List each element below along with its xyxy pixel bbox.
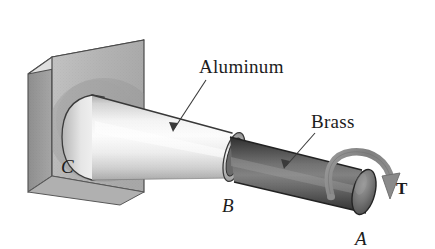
label-brass: Brass bbox=[311, 112, 355, 131]
label-point-b: B bbox=[222, 196, 234, 215]
label-point-c: C bbox=[61, 157, 74, 176]
torque-arrow-tail bbox=[327, 194, 335, 200]
label-aluminum: Aluminum bbox=[199, 57, 284, 76]
aluminum-tube bbox=[62, 95, 249, 184]
label-point-a: A bbox=[355, 229, 367, 248]
label-torque-t: T bbox=[396, 180, 407, 197]
